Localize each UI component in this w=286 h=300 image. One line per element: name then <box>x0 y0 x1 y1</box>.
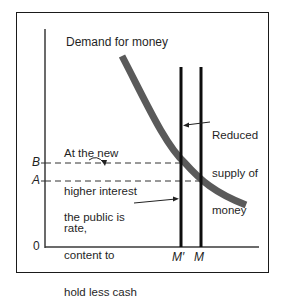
cash-arrow-line <box>134 199 176 203</box>
annotation-bottom: the public is content to hold less cash <box>64 186 137 300</box>
supply-arrow-head <box>183 123 189 128</box>
annotation-bottom-line1: the public is <box>64 211 137 224</box>
origin-label: 0 <box>33 240 40 253</box>
annotation-top-line1: At the new <box>64 147 137 160</box>
y-tick-label-B: B <box>32 156 40 169</box>
y-tick-label-A: A <box>32 174 40 187</box>
reduced-supply-line3: money <box>212 204 258 217</box>
reduced-supply-label: Reduced supply of money <box>212 104 258 229</box>
x-tick-label-M-prime: M′ <box>172 251 184 264</box>
reduced-supply-line1: Reduced <box>212 129 258 142</box>
annotation-bottom-line3: hold less cash <box>64 286 137 299</box>
supply-arrow-line <box>186 122 210 125</box>
reduced-supply-line2: supply of <box>212 167 258 180</box>
annotation-bottom-line2: content to <box>64 249 137 262</box>
cash-arrow-head <box>173 197 179 202</box>
x-tick-label-M: M <box>194 251 204 264</box>
demand-for-money-label: Demand for money <box>66 36 168 49</box>
